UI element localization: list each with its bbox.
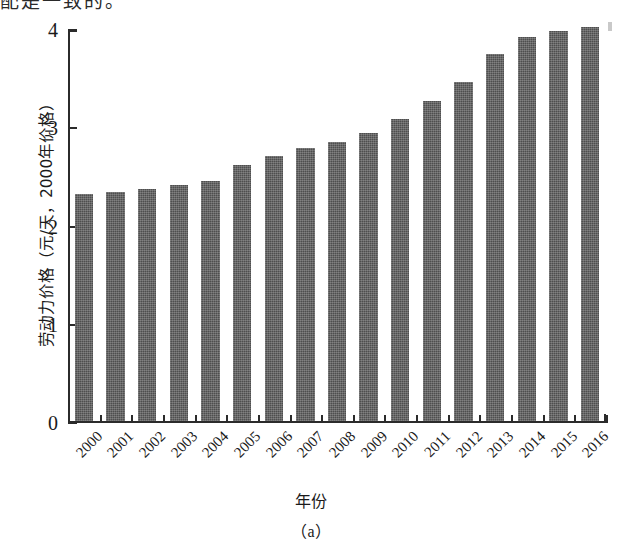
- x-axis-tick: [258, 415, 260, 423]
- bar: [170, 185, 188, 421]
- x-axis-tick: [574, 415, 576, 423]
- x-axis-tick: [448, 415, 450, 423]
- x-axis-tick: [68, 415, 70, 423]
- bar: [233, 165, 251, 421]
- bar: [265, 156, 283, 421]
- y-axis-tick: [68, 29, 77, 31]
- x-axis-tick-labels: 2000200120022003200420052006200720082009…: [68, 428, 606, 483]
- bar: [359, 133, 377, 421]
- bar: [201, 181, 219, 421]
- bar: [391, 119, 409, 421]
- bar: [75, 194, 93, 421]
- x-axis-tick: [195, 415, 197, 423]
- x-axis-tick: [511, 415, 513, 423]
- x-axis-tick: [131, 415, 133, 423]
- y-axis-tick: [68, 127, 77, 129]
- bar: [518, 37, 536, 421]
- bar: [549, 31, 567, 421]
- x-axis-spine: [68, 421, 606, 423]
- bar: [581, 27, 599, 421]
- bar: [138, 189, 156, 421]
- x-axis-tick: [479, 415, 481, 423]
- x-axis-tick: [416, 415, 418, 423]
- figure-caption: （a）: [0, 518, 622, 542]
- y-axis-tick-label: 0: [22, 413, 58, 433]
- x-axis-tick: [163, 415, 165, 423]
- x-axis-tick: [321, 415, 323, 423]
- y-axis-tick-label: 1: [22, 315, 58, 335]
- bar: [423, 101, 441, 421]
- y-axis-tick-label: 3: [22, 118, 58, 138]
- bar: [106, 192, 124, 421]
- x-axis-tick: [353, 415, 355, 423]
- x-axis-tick: [100, 415, 102, 423]
- x-axis-tick: [290, 415, 292, 423]
- x-axis-tick: [226, 415, 228, 423]
- bar-chart-figure: 劳动力价格（元/天，2000年价格） 01234 200020012002200…: [0, 0, 622, 546]
- bar: [328, 142, 346, 421]
- x-axis-tick: [384, 415, 386, 423]
- plot-area: 01234: [68, 30, 606, 423]
- y-axis-tick-label: 2: [22, 217, 58, 237]
- bar: [296, 148, 314, 421]
- y-axis-tick-label: 4: [22, 20, 58, 40]
- bar: [454, 82, 472, 421]
- bar: [486, 54, 504, 421]
- x-axis-tick: [543, 415, 545, 423]
- x-axis-title: 年份: [0, 488, 622, 512]
- x-axis-tick: [606, 415, 608, 423]
